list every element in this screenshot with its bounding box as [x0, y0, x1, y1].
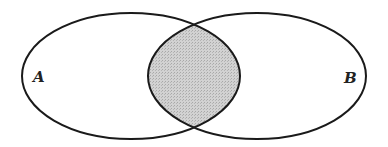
- venn-diagram: A B: [0, 0, 388, 147]
- set-b-label: B: [343, 69, 357, 87]
- set-a-label: A: [31, 68, 45, 86]
